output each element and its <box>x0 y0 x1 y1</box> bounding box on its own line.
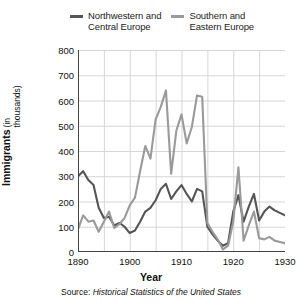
chart-svg <box>78 50 285 252</box>
x-axis-tick-labels: 18901900191019201930 <box>78 256 285 270</box>
x-axis-tick-label: 1900 <box>110 256 150 267</box>
x-axis-tick-label: 1930 <box>265 256 302 267</box>
y-axis-tick-label: 600 <box>40 95 74 106</box>
chart-legend: Northwestern and Central Europe Southern… <box>70 10 298 42</box>
y-axis-tick-label: 500 <box>40 120 74 131</box>
y-axis-title: Immigrants (in thousands) <box>0 74 40 186</box>
y-axis-tick-label: 800 <box>40 45 74 56</box>
legend-item-northwestern-central-europe: Northwestern and Central Europe <box>70 10 161 32</box>
x-axis-tick-label: 1920 <box>213 256 253 267</box>
x-axis-tick-label: 1910 <box>162 256 202 267</box>
y-axis-tick-label: 400 <box>40 146 74 157</box>
x-axis-title: Year <box>0 271 302 283</box>
y-axis-tick-label: 700 <box>40 70 74 81</box>
legend-item-label: Southern and Eastern Europe <box>189 10 254 32</box>
legend-item-label: Northwestern and Central Europe <box>88 10 161 32</box>
source-prefix: Source: <box>61 287 93 297</box>
y-axis-title-unit: (in thousands) <box>2 74 22 127</box>
gridlines <box>78 50 285 252</box>
legend-line-swatch-icon <box>70 15 83 18</box>
y-axis-tick-label: 200 <box>40 196 74 207</box>
source-note: Source: Historical Statistics of the Uni… <box>0 287 302 297</box>
y-axis-tick-label: 100 <box>40 221 74 232</box>
source-title: Historical Statistics of the United Stat… <box>93 287 241 297</box>
y-axis-tick-labels: 0100200300400500600700800 <box>38 50 74 252</box>
legend-item-southern-eastern-europe: Southern and Eastern Europe <box>171 10 254 32</box>
legend-line-swatch-icon <box>171 15 184 18</box>
plot-area <box>78 50 285 252</box>
y-axis-title-main: Immigrants <box>0 129 12 186</box>
x-axis-tick-label: 1890 <box>58 256 98 267</box>
y-axis-tick-label: 300 <box>40 171 74 182</box>
chart-figure: Northwestern and Central Europe Southern… <box>0 0 302 303</box>
